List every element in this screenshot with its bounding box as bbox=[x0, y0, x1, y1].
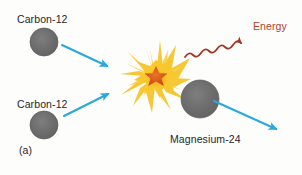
carbon-12-bottom-label: Carbon-12 bbox=[17, 99, 68, 110]
magnesium-24-nucleus bbox=[181, 80, 219, 118]
carbon-12-top-nucleus bbox=[30, 28, 58, 56]
magnesium-24-label: Magnesium-24 bbox=[170, 134, 241, 145]
panel-caption: (a) bbox=[19, 145, 32, 156]
carbon-12-bottom-nucleus bbox=[30, 111, 58, 139]
fusion-burst-icon bbox=[120, 40, 191, 113]
carbon-12-top-label: Carbon-12 bbox=[17, 14, 68, 25]
energy-label: Energy bbox=[253, 21, 287, 32]
fusion-diagram-figure: Carbon-12 Carbon-12 Magnesium-24 Energy … bbox=[0, 0, 302, 175]
carbon-bottom-to-burst-arrow bbox=[64, 94, 108, 116]
energy-emission-wavy-arrow bbox=[185, 41, 241, 57]
carbon-top-to-burst-arrow bbox=[62, 45, 107, 66]
magnesium-outgoing-arrow bbox=[214, 101, 276, 129]
